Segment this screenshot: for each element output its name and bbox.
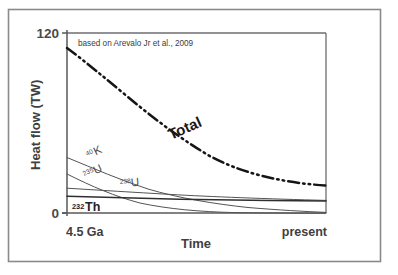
x-axis-title: Time — [181, 236, 211, 251]
figure-container: 120 0 Heat flow (TW) Time 4.5 Ga present… — [0, 0, 398, 275]
curve-label-th232-base: Th — [85, 200, 100, 214]
source-annotation: based on Arevalo Jr et al., 2009 — [78, 39, 194, 48]
page-background — [0, 0, 398, 275]
y-tick-label-0: 0 — [51, 206, 59, 221]
y-axis-title: Heat flow (TW) — [28, 80, 43, 170]
y-tick-label-120: 120 — [36, 26, 59, 41]
x-end-label: present — [282, 225, 328, 239]
x-start-label: 4.5 Ga — [66, 225, 105, 239]
curve-label-th232-superscript: 232 — [72, 202, 84, 211]
heat-flow-chart: 120 0 Heat flow (TW) Time 4.5 Ga present… — [0, 0, 398, 275]
curve-label-u238-base: U — [130, 176, 140, 189]
